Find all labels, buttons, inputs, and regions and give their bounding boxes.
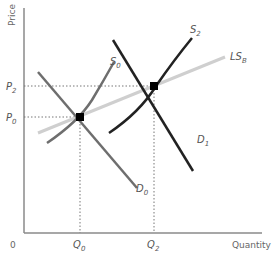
p0-label: P0 (6, 112, 17, 126)
d1-label: D1 (197, 134, 209, 148)
demand-curve-d1 (113, 40, 193, 171)
supply-demand-diagram: Price Quantity 0 P2 P0 Q0 Q2 S0 S2 LSB D… (0, 0, 277, 260)
equilibrium-point-new (150, 82, 158, 90)
d0-label: D0 (136, 183, 149, 197)
s2-label: S2 (190, 24, 201, 38)
equilibrium-point-initial (76, 113, 84, 121)
supply-curve-s0 (47, 62, 114, 143)
lsb-label: LSB (230, 51, 247, 65)
y-axis-label: Price (7, 4, 17, 26)
demand-curve-d0 (38, 72, 137, 188)
x-axis-label: Quantity (232, 240, 272, 250)
q0-label: Q0 (73, 239, 86, 253)
q2-label: Q2 (147, 239, 160, 253)
p2-label: P2 (6, 81, 17, 95)
origin-label: 0 (10, 240, 16, 250)
